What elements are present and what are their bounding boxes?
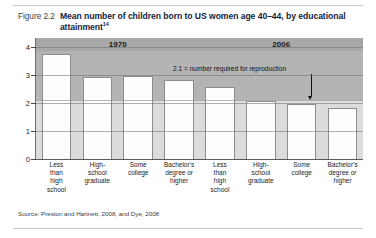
bar-slot (159, 38, 200, 160)
title-footnote-marker: 14 (103, 21, 109, 27)
bar-slot (281, 38, 322, 160)
bar-2006-some-college (287, 104, 316, 160)
figure-title-block: Figure 2.2 Mean number of children born … (18, 11, 358, 33)
x-label-line: than (37, 169, 76, 177)
reference-line-2-1 (36, 100, 363, 101)
x-label-line: school (201, 186, 240, 194)
x-label-1970-less-than-high-school: Lessthanhighschool (36, 161, 77, 205)
x-label-line: Bachelor's (323, 161, 362, 169)
y-tick-label-0: 0 (16, 155, 30, 164)
x-label-1970-high-school-graduate: High-schoolgraduate (77, 161, 118, 205)
bottom-divider (13, 228, 363, 229)
bar-1970-high-school-graduate (83, 77, 112, 160)
x-label-line: Less (37, 161, 76, 169)
x-label-2006-bachelors-or-higher: Bachelor'sdegree orhigher (322, 161, 363, 205)
y-axis: 01234 (13, 38, 36, 160)
gridline-1 (36, 131, 363, 132)
figure-number: Figure 2.2 (18, 11, 60, 22)
gridline-0 (36, 159, 363, 160)
x-label-line: graduate (78, 177, 117, 185)
y-tick-label-1: 1 (16, 127, 30, 136)
bar-slot (240, 38, 281, 160)
x-label-line: than (201, 169, 240, 177)
x-label-2006-high-school-graduate: High-schoolgraduate (240, 161, 281, 205)
x-label-line: school (37, 186, 76, 194)
x-label-line: Some (119, 161, 158, 169)
x-label-line: high (37, 177, 76, 185)
bar-slot (322, 38, 363, 160)
x-label-line: school (78, 169, 117, 177)
figure-container: Figure 2.2 Mean number of children born … (0, 0, 376, 238)
x-label-line: college (282, 169, 321, 177)
x-label-line: graduate (241, 177, 280, 185)
x-label-line: degree or (160, 169, 199, 177)
bar-2006-bachelors-or-higher (328, 108, 357, 160)
x-label-line: Bachelor's (160, 161, 199, 169)
gridline-2 (36, 103, 363, 104)
bar-2006-less-than-high-school (205, 87, 234, 160)
y-tick-label-4: 4 (16, 43, 30, 52)
bar-slot (118, 38, 159, 160)
x-axis-labels: Lessthanhighschool High-schoolgraduate S… (36, 161, 363, 205)
x-label-2006-less-than-high-school: Lessthanhighschool (200, 161, 241, 205)
bar-1970-some-college (123, 76, 152, 160)
x-label-line: High- (241, 161, 280, 169)
x-label-line: degree or (323, 169, 362, 177)
gridline-3 (36, 75, 363, 76)
x-label-line: college (119, 169, 158, 177)
x-label-line: higher (323, 177, 362, 185)
bar-1970-less-than-high-school (42, 54, 71, 160)
annotation-leader-line (311, 74, 312, 97)
x-label-1970-bachelors-or-higher: Bachelor'sdegree orhigher (159, 161, 200, 205)
x-label-line: school (241, 169, 280, 177)
y-tick-label-2: 2 (16, 99, 30, 108)
plot-area: 1970 2006 2.1 = number required for repr… (36, 38, 363, 160)
chart-area: 01234 1970 2006 2.1 = number required fo… (13, 38, 363, 160)
y-tick-label-3: 3 (16, 71, 30, 80)
x-label-line: high (201, 177, 240, 185)
x-label-line: Some (282, 161, 321, 169)
x-label-2006-some-college: Somecollege (281, 161, 322, 205)
x-label-line: Less (201, 161, 240, 169)
x-label-1970-some-college: Somecollege (118, 161, 159, 205)
bar-slot (200, 38, 241, 160)
bar-1970-bachelors-or-higher (164, 80, 193, 160)
replacement-annotation-label: 2.1 = number required for reproduction (173, 65, 286, 72)
gridline-4 (36, 47, 363, 48)
bar-slot (77, 38, 118, 160)
x-label-line: higher (160, 177, 199, 185)
bar-slot (36, 38, 77, 160)
top-divider (13, 5, 363, 6)
source-note: Source: Preston and Hartnett, 2008, and … (18, 210, 159, 217)
x-label-line: High- (78, 161, 117, 169)
bar-series (36, 38, 363, 160)
page-title: Mean number of children born to US women… (60, 11, 358, 33)
